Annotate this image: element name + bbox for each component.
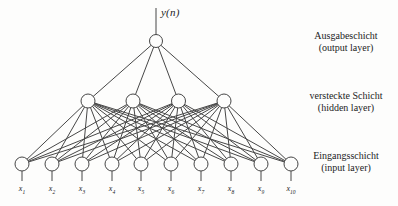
- input-label-9: x9: [257, 184, 265, 195]
- annotation-input-layer: Eingangsschicht (input layer): [294, 150, 398, 174]
- neuron-input-7: [194, 157, 208, 171]
- edge-output-hidden-4: [156, 41, 224, 101]
- neural-network-figure: x1x2x3x4x5x6x7x8x9x10 y(n) Ausgabeschich…: [0, 0, 398, 206]
- neuron-input-2: [45, 157, 59, 171]
- edge-hidden1-input7: [88, 101, 201, 164]
- annotation-input-layer-en: (input layer): [294, 162, 398, 174]
- neuron-hidden-1: [81, 94, 95, 108]
- edge-output-hidden-2: [133, 41, 156, 101]
- edge-hidden3-input6: [171, 101, 179, 164]
- annotation-hidden-layer-de: versteckte Schicht: [294, 90, 398, 102]
- edge-output-hidden-3: [156, 41, 179, 101]
- edge-hidden4-input1: [22, 101, 224, 164]
- neuron-input-1: [15, 157, 29, 171]
- edge-hidden2-input2: [52, 101, 133, 164]
- annotation-output-layer-en: (output layer): [294, 42, 398, 54]
- output-signal-label: y(n): [161, 6, 180, 18]
- neuron-hidden-4: [217, 94, 231, 108]
- annotation-hidden-layer-en: (hidden layer): [294, 102, 398, 114]
- input-label-1: x1: [18, 184, 26, 195]
- input-label-7: x7: [197, 184, 205, 195]
- input-label-10: x10: [285, 184, 295, 195]
- input-label-3: x3: [78, 184, 86, 195]
- annotation-output-layer-de: Ausgabeschicht: [294, 30, 398, 42]
- input-label-5: x5: [137, 184, 145, 195]
- neuron-input-9: [254, 157, 268, 171]
- input-label-6: x6: [167, 184, 175, 195]
- neuron-input-6: [164, 157, 178, 171]
- input-label-2: x2: [48, 184, 56, 195]
- neuron-hidden-2: [126, 94, 140, 108]
- edge-hidden2-input3: [82, 101, 133, 164]
- edge-output-hidden-1: [88, 41, 156, 101]
- neuron-hidden-3: [172, 94, 186, 108]
- neuron-input-3: [75, 157, 89, 171]
- neuron-input-8: [224, 157, 238, 171]
- neuron-input-4: [105, 157, 119, 171]
- input-label-8: x8: [227, 184, 235, 195]
- neuron-input-5: [134, 157, 148, 171]
- input-label-4: x4: [108, 184, 116, 195]
- annotation-output-layer: Ausgabeschicht (output layer): [294, 30, 398, 54]
- neuron-output-1: [150, 35, 163, 48]
- annotation-hidden-layer: versteckte Schicht (hidden layer): [294, 90, 398, 114]
- annotation-input-layer-de: Eingangsschicht: [294, 150, 398, 162]
